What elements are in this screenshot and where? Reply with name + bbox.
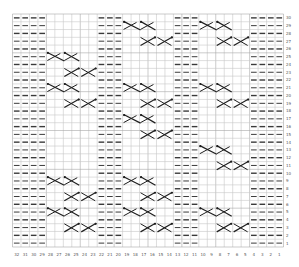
row-label: 13 xyxy=(286,147,292,152)
row-label: 26 xyxy=(286,46,292,51)
row-label: 20 xyxy=(286,93,292,98)
knitting-chart: 3231302928272625242322212019181716151413… xyxy=(0,0,299,267)
column-label: 1 xyxy=(278,252,281,257)
column-label: 32 xyxy=(14,252,20,257)
row-labels: 3029282726252423222120191817161514131211… xyxy=(286,15,292,245)
row-label: 27 xyxy=(286,39,292,44)
row-label: 22 xyxy=(286,77,292,82)
row-label: 7 xyxy=(286,194,289,199)
column-label: 11 xyxy=(192,252,198,257)
column-label: 19 xyxy=(124,252,130,257)
row-label: 15 xyxy=(286,132,292,137)
row-label: 28 xyxy=(286,31,292,36)
column-label: 25 xyxy=(73,252,79,257)
column-label: 8 xyxy=(219,252,222,257)
column-label: 2 xyxy=(270,252,273,257)
column-label: 28 xyxy=(48,252,54,257)
left-cross-cable xyxy=(64,98,96,107)
row-label: 1 xyxy=(286,241,289,246)
row-label: 9 xyxy=(286,178,289,183)
column-label: 14 xyxy=(167,252,173,257)
row-label: 5 xyxy=(286,209,289,214)
row-label: 21 xyxy=(286,85,292,90)
row-label: 8 xyxy=(286,186,289,191)
row-label: 19 xyxy=(286,101,292,106)
column-label: 26 xyxy=(65,252,71,257)
row-label: 4 xyxy=(286,217,289,222)
column-label: 4 xyxy=(253,252,256,257)
column-label: 9 xyxy=(210,252,213,257)
column-label: 16 xyxy=(150,252,156,257)
left-cross-cable xyxy=(64,67,96,76)
row-label: 6 xyxy=(286,202,289,207)
column-label: 10 xyxy=(201,252,207,257)
column-label: 5 xyxy=(244,252,247,257)
row-label: 12 xyxy=(286,155,292,160)
column-label: 21 xyxy=(107,252,113,257)
column-label: 17 xyxy=(141,252,147,257)
column-label: 29 xyxy=(40,252,46,257)
row-label: 23 xyxy=(286,70,292,75)
column-label: 13 xyxy=(175,252,181,257)
row-label: 29 xyxy=(286,23,292,28)
row-label: 25 xyxy=(286,54,292,59)
left-cross-cable xyxy=(64,223,96,232)
row-label: 30 xyxy=(286,15,292,20)
column-label: 6 xyxy=(236,252,239,257)
row-label: 14 xyxy=(286,140,292,145)
left-cross-cable xyxy=(64,192,96,201)
column-label: 30 xyxy=(31,252,37,257)
column-label: 7 xyxy=(227,252,230,257)
row-label: 24 xyxy=(286,62,292,67)
row-label: 3 xyxy=(286,225,289,230)
column-label: 27 xyxy=(57,252,63,257)
row-label: 16 xyxy=(286,124,292,129)
column-label: 3 xyxy=(261,252,264,257)
column-label: 15 xyxy=(158,252,164,257)
column-label: 20 xyxy=(116,252,122,257)
column-label: 18 xyxy=(133,252,139,257)
column-label: 12 xyxy=(184,252,190,257)
row-label: 18 xyxy=(286,108,292,113)
column-label: 31 xyxy=(23,252,29,257)
row-label: 11 xyxy=(286,163,292,168)
column-labels: 3231302928272625242322212019181716151413… xyxy=(14,252,281,257)
row-label: 2 xyxy=(286,233,289,238)
row-label: 10 xyxy=(286,171,292,176)
row-label: 17 xyxy=(286,116,292,121)
column-label: 24 xyxy=(82,252,88,257)
column-label: 23 xyxy=(90,252,96,257)
column-label: 22 xyxy=(99,252,105,257)
